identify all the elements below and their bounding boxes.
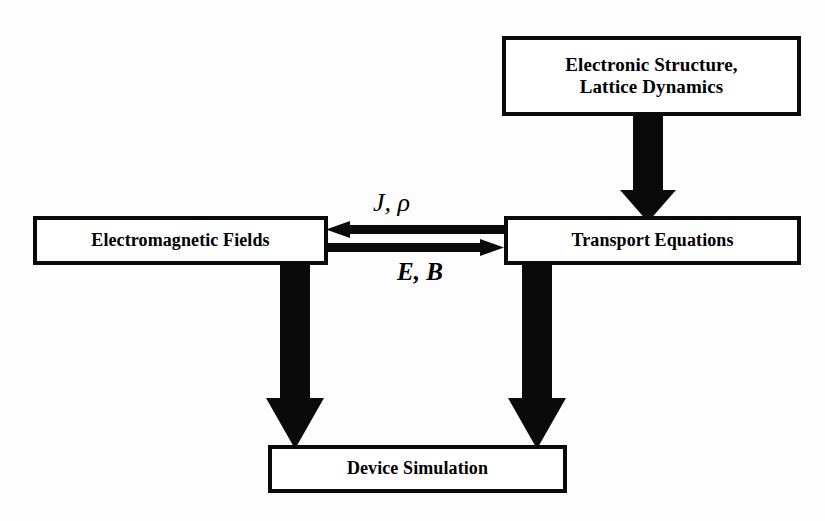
arrow-electronic-structure-to-transport-equations (620, 110, 676, 222)
arrow-transport-equations-to-device-simulation (508, 260, 566, 449)
node-electromagnetic-fields-label: Electromagnetic Fields (91, 230, 269, 251)
node-transport-equations-label: Transport Equations (571, 230, 733, 251)
node-device-simulation-label: Device Simulation (347, 458, 488, 479)
node-device-simulation[interactable]: Device Simulation (268, 445, 567, 493)
edge-label-current-density-charge: J, ρ (373, 188, 410, 218)
edge-label-electric-magnetic-field: E, B (397, 258, 443, 286)
node-transport-equations[interactable]: Transport Equations (504, 216, 801, 265)
node-electromagnetic-fields[interactable]: Electromagnetic Fields (33, 216, 328, 265)
arrow-electromagnetic-fields-to-transport-equations (327, 239, 504, 256)
diagram-canvas: Electronic Structure, Lattice Dynamics E… (0, 0, 825, 521)
arrow-transport-equations-to-electromagnetic-fields (326, 221, 505, 238)
arrow-electromagnetic-fields-to-device-simulation (266, 260, 324, 449)
node-electronic-structure[interactable]: Electronic Structure, Lattice Dynamics (502, 36, 801, 116)
node-electronic-structure-label: Electronic Structure, Lattice Dynamics (565, 54, 737, 99)
